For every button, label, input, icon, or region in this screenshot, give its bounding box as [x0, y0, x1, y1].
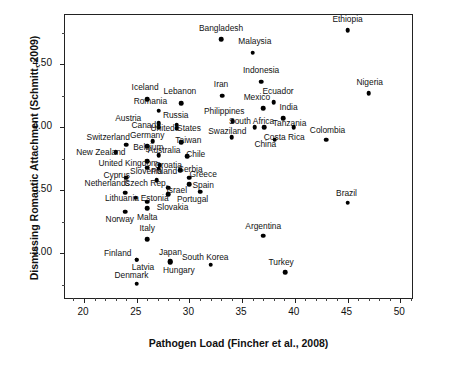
data-point-label: Iran [214, 79, 228, 89]
x-axis-tick [348, 298, 349, 303]
x-axis-minor-tick [379, 298, 380, 301]
data-point [324, 138, 329, 143]
data-point-label: South Africa [229, 116, 274, 126]
x-axis-tick-label: 20 [77, 306, 88, 317]
data-point [179, 101, 184, 106]
y-axis-minor-tick [62, 96, 65, 97]
data-point-label: Tanzania [273, 118, 307, 128]
data-point-label: Estonia [141, 193, 169, 203]
x-axis-tick [189, 298, 190, 303]
y-axis-tick [60, 190, 65, 191]
data-point-label: Lithuania [105, 193, 139, 203]
y-axis-tick-label: 3.50 [0, 183, 52, 194]
data-point-label: Chile [186, 149, 205, 159]
data-point-label: Taiwan [175, 135, 201, 145]
x-axis-minor-tick [263, 298, 264, 301]
y-axis-tick-label: 4.50 [0, 57, 52, 68]
data-point-label: Iceland [132, 82, 159, 92]
x-axis-minor-tick [232, 298, 233, 301]
data-point [145, 237, 150, 242]
data-point-label: Romania [134, 96, 168, 106]
x-axis-minor-tick [116, 298, 117, 301]
x-axis-minor-tick [274, 298, 275, 301]
x-axis-minor-tick [179, 298, 180, 301]
x-axis-minor-tick [253, 298, 254, 301]
x-axis-minor-tick [337, 298, 338, 301]
x-axis-minor-tick [200, 298, 201, 301]
data-point-label: Turkey [268, 257, 293, 267]
data-point-label: Australia [148, 145, 181, 155]
x-axis-tick-label: 25 [130, 306, 141, 317]
data-point-label: Greece [189, 169, 216, 179]
data-point-label: Netherlands [85, 178, 130, 188]
x-axis-minor-tick [126, 298, 127, 301]
x-axis-minor-tick [390, 298, 391, 301]
data-point [292, 125, 297, 130]
data-point [366, 91, 371, 96]
data-point [261, 233, 266, 238]
scatter-plot-figure: Dismissing Romantic Attachment (Schmitt,… [0, 0, 451, 369]
data-point [208, 262, 213, 267]
x-axis-tick [295, 298, 296, 303]
x-axis-tick-label: 40 [288, 306, 299, 317]
data-point-label: Austria [115, 113, 141, 123]
y-axis-minor-tick [62, 285, 65, 286]
data-point-label: Malta [137, 212, 157, 222]
data-point-label: Colombia [310, 125, 345, 135]
data-point-label: Swaziland [208, 126, 246, 136]
data-point-label: South Korea [182, 252, 229, 262]
data-point-label: Bangladesh [199, 23, 243, 33]
data-point-label: Argentina [245, 221, 281, 231]
data-point-label: Finland [104, 248, 131, 258]
data-point-label: Poland [151, 166, 177, 176]
data-point-label: Spain [192, 180, 213, 190]
data-point-label: Hungary [163, 265, 195, 275]
data-point [271, 100, 276, 105]
y-axis-tick [60, 64, 65, 65]
data-point [259, 80, 264, 85]
data-point-label: Norway [106, 214, 134, 224]
data-point-label: Mexico [244, 92, 271, 102]
data-point-label: India [279, 102, 297, 112]
y-axis-minor-tick [62, 159, 65, 160]
x-axis-minor-tick [105, 298, 106, 301]
data-point-label: Slovakia [157, 202, 189, 212]
data-point-label: Malaysia [238, 36, 271, 46]
x-axis-tick-label: 30 [183, 306, 194, 317]
data-point-label: Italy [140, 223, 155, 233]
x-axis-title: Pathogen Load (Fincher et al., 2008) [64, 337, 413, 349]
data-point-label: Germany [130, 130, 164, 140]
y-axis-tick [60, 127, 65, 128]
data-point-label: Czech Rep. [124, 178, 168, 188]
data-point [220, 93, 225, 98]
data-point-label: China [254, 139, 276, 149]
y-axis-tick-label: 4.00 [0, 120, 52, 131]
x-axis-tick-label: 50 [394, 306, 405, 317]
x-axis-minor-tick [95, 298, 96, 301]
data-point-label: Nigeria [356, 77, 383, 87]
x-axis-minor-tick [168, 298, 169, 301]
x-axis-minor-tick [316, 298, 317, 301]
y-axis-minor-tick [62, 33, 65, 34]
data-point-label: Japan [159, 247, 182, 257]
y-axis-minor-tick [62, 222, 65, 223]
data-point [219, 37, 224, 42]
x-axis-minor-tick [369, 298, 370, 301]
data-point [345, 28, 350, 33]
x-axis-minor-tick [211, 298, 212, 301]
x-axis-tick-label: 35 [236, 306, 247, 317]
x-axis-minor-tick [73, 298, 74, 301]
y-axis-tick-label: 3.00 [0, 246, 52, 257]
data-point [145, 206, 150, 211]
data-point-label: Brazil [336, 188, 357, 198]
data-point [261, 106, 266, 111]
data-point-label: Lebanon [164, 86, 197, 96]
data-point-label: Ethiopia [332, 14, 362, 24]
data-point [283, 270, 288, 275]
data-point-label: Russia [163, 110, 189, 120]
x-axis-minor-tick [284, 298, 285, 301]
x-axis-tick [84, 298, 85, 303]
data-point-label: Philippines [204, 106, 245, 116]
x-axis-tick [400, 298, 401, 303]
data-point-label: Indonesia [243, 65, 279, 75]
